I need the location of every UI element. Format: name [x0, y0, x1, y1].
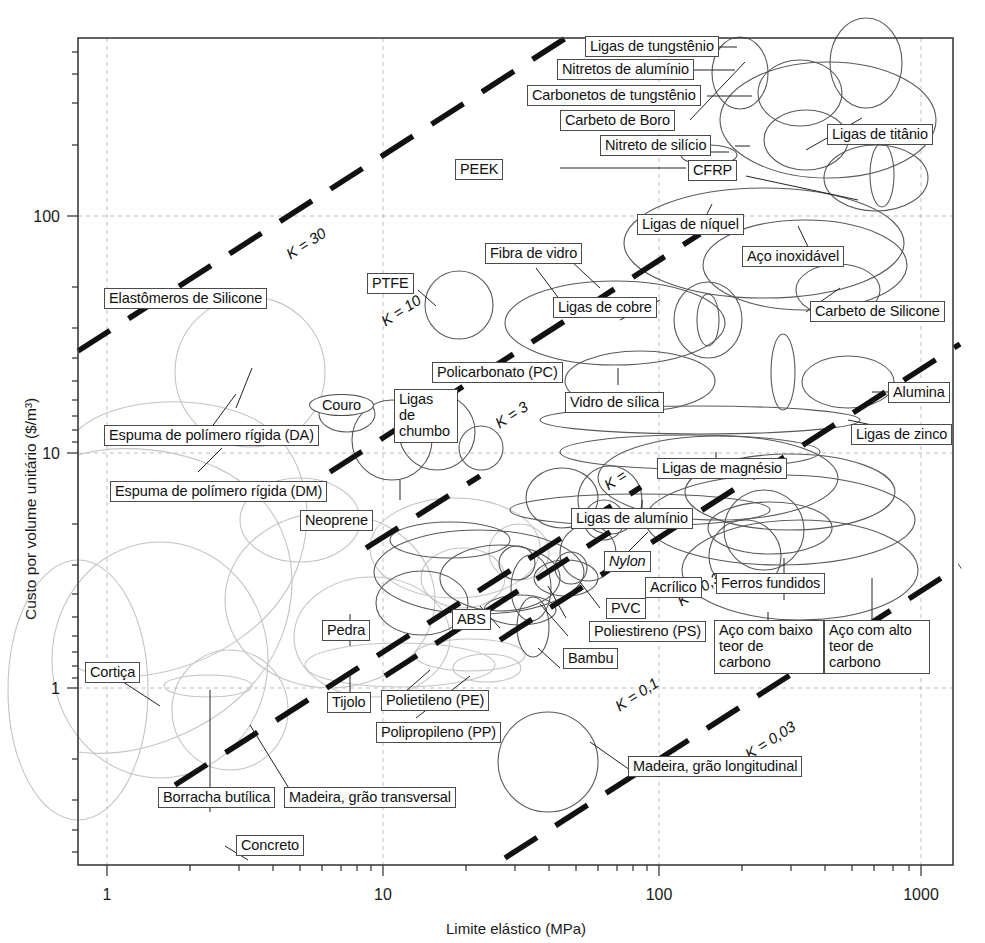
xtick-10: 10	[374, 886, 392, 903]
label-tijolo[interactable]: Tijolo	[327, 692, 371, 713]
label-ligas-de-titanio[interactable]: Ligas de titânio	[827, 124, 933, 145]
xtick-1: 1	[103, 886, 112, 903]
label-ligas-de-aluminio[interactable]: Ligas de alumínio	[571, 508, 693, 529]
label-ptfe[interactable]: PTFE	[367, 273, 414, 294]
label-abs[interactable]: ABS	[452, 609, 491, 630]
label-nitreto-de-silicio[interactable]: Nitreto de silício	[600, 135, 711, 156]
y-axis-title: Custo por volume unitário ($/m³)	[22, 398, 40, 620]
label-espuma-polimero-rigida-dm[interactable]: Espuma de polímero rígida (DM)	[110, 481, 327, 502]
label-policarbonato-pc[interactable]: Policarbonato (PC)	[432, 362, 563, 383]
label-ligas-de-tungstenio[interactable]: Ligas de tungstênio	[585, 36, 719, 57]
xtick-1000: 1000	[903, 886, 939, 903]
label-cfrp[interactable]: CFRP	[688, 160, 737, 181]
label-aco-baixo-teor-carbono[interactable]: Aço com baixo teor de carbono	[714, 620, 824, 674]
label-espuma-polimero-rigida-da[interactable]: Espuma de polímero rígida (DA)	[104, 425, 319, 446]
label-borracha-butilica[interactable]: Borracha butílica	[158, 787, 275, 808]
label-fibra-de-vidro[interactable]: Fibra de vidro	[485, 243, 582, 264]
label-acrilico[interactable]: Acrílico	[645, 577, 702, 598]
label-poliestireno-ps[interactable]: Poliestireno (PS)	[589, 621, 706, 642]
x-axis-title: Limite elástico (MPa)	[446, 920, 586, 937]
label-pedra[interactable]: Pedra	[322, 620, 370, 641]
label-ligas-de-niquel[interactable]: Ligas de níquel	[637, 214, 744, 235]
label-madeira-grao-transversal[interactable]: Madeira, grão transversal	[284, 787, 456, 808]
label-madeira-grao-longitudinal[interactable]: Madeira, grão longitudinal	[628, 756, 802, 777]
label-ligas-de-zinco[interactable]: Ligas de zinco	[851, 424, 952, 445]
label-ligas-de-magnesio[interactable]: Ligas de magnésio	[657, 458, 787, 479]
label-polipropileno-pp[interactable]: Polipropileno (PP)	[376, 722, 501, 743]
ytick-10: 10	[42, 445, 60, 462]
label-neoprene[interactable]: Neoprene	[300, 510, 373, 531]
label-carbonetos-de-tungstenio[interactable]: Carbonetos de tungstênio	[527, 85, 701, 106]
label-alumina[interactable]: Alumina	[888, 382, 950, 403]
label-aco-alto-teor-carbono[interactable]: Aço com alto teor de carbono	[824, 620, 930, 674]
label-nylon[interactable]: Nylon	[604, 551, 651, 572]
ytick-1: 1	[51, 680, 60, 697]
xtick-100: 100	[646, 886, 673, 903]
label-carbeto-de-boro[interactable]: Carbeto de Boro	[560, 110, 675, 131]
ytick-100: 100	[33, 208, 60, 225]
label-ligas-de-cobre[interactable]: Ligas de cobre	[553, 297, 657, 318]
axis-frame	[78, 38, 953, 865]
label-ligas-de-chumbo[interactable]: Ligas de chumbo	[394, 389, 458, 443]
label-concreto[interactable]: Concreto	[236, 835, 304, 856]
label-nitretos-de-aluminio[interactable]: Nitretos de alumínio	[557, 59, 694, 80]
label-aco-inoxidavel[interactable]: Aço inoxidável	[742, 246, 844, 267]
label-pvc[interactable]: PVC	[606, 598, 646, 619]
label-polietileno-pe[interactable]: Polietileno (PE)	[381, 690, 489, 711]
label-peek[interactable]: PEEK	[455, 159, 503, 180]
label-elastomeros-de-silicone[interactable]: Elastômeros de Silicone	[104, 288, 267, 309]
gridlines	[78, 38, 953, 865]
ashby-chart: 1 10 100 1000 100 10 1 Limite elástico (…	[0, 0, 985, 943]
label-bambu[interactable]: Bambu	[563, 648, 618, 669]
label-ferros-fundidos[interactable]: Ferros fundidos	[716, 573, 825, 594]
label-vidro-de-silica[interactable]: Vidro de sílica	[565, 392, 664, 413]
label-cortica[interactable]: Cortiça	[85, 662, 140, 683]
label-carbeto-de-silicone[interactable]: Carbeto de Silicone	[810, 301, 945, 322]
